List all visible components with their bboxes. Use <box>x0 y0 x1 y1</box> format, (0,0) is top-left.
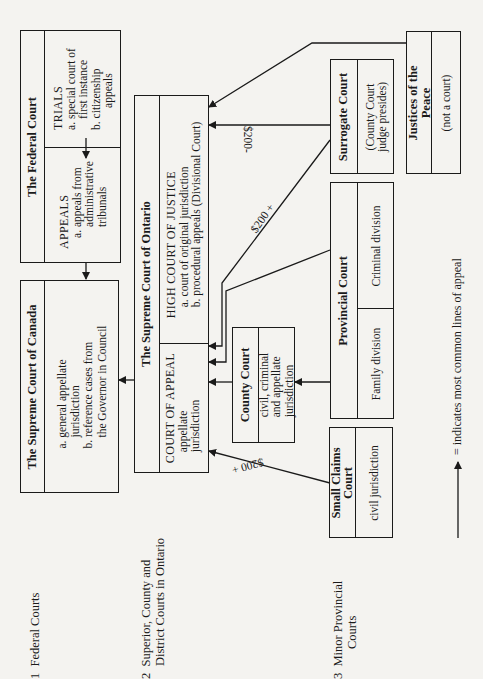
high-court-heading: HIGH COURT OF JUSTICE <box>165 121 178 318</box>
county-court-item: and appellate <box>270 353 282 418</box>
section-title-line2: District Courts in Ontario <box>154 538 168 679</box>
section-number: 1 <box>28 673 42 679</box>
section-title: Federal Courts <box>28 593 42 667</box>
supreme-court-ontario-header: The Supreme Court of Ontario <box>135 96 160 472</box>
county-court-item: jurisdiction <box>283 353 295 418</box>
provincial-court-header: Provincial Court <box>331 183 358 418</box>
justices-body: (not a court) <box>432 32 460 173</box>
county-court-box: County Court civil, criminal and appella… <box>232 327 295 443</box>
jurisdiction-item: jurisdiction <box>68 325 81 448</box>
supreme-court-canada-box: The Supreme Court of Canada a. general a… <box>20 280 119 493</box>
justices-note: (not a court) <box>440 74 452 131</box>
supreme-court-canada-header: The Supreme Court of Canada <box>21 281 45 492</box>
legend: = indicates most common lines of appeal <box>451 258 464 455</box>
trials-item: first instance <box>77 48 89 130</box>
court-of-appeal-item: appellate <box>177 353 189 463</box>
section-title-line1: Minor Provincial <box>331 581 345 667</box>
small-claims-note: civil jurisdiction <box>368 445 380 521</box>
legend-arrow-icon <box>452 460 464 540</box>
high-court-item: b. procedural appeals (Divisional Court) <box>190 121 202 318</box>
small-claims-body: civil jurisdiction <box>356 428 392 537</box>
appeals-item: administrative <box>83 161 95 249</box>
family-division-label: Family division <box>369 327 381 400</box>
justices-title-line2: Peace <box>419 65 432 140</box>
county-court-title: County Court <box>239 348 253 423</box>
federal-court-box: The Federal Court TRIALS a. special cour… <box>20 30 121 263</box>
surrogate-court-header: Surrogate Court <box>331 60 358 173</box>
section-number: 2 <box>139 673 153 679</box>
surrogate-court-body: (County Court judge presides) <box>358 60 393 173</box>
appeals-heading: APPEALS <box>57 161 70 249</box>
federal-court-header: The Federal Court <box>21 31 45 262</box>
surrogate-court-note: judge presides) <box>376 82 388 152</box>
justices-header: Justices of the Peace <box>407 32 432 173</box>
surrogate-court-box: Surrogate Court (County Court judge pres… <box>330 59 394 174</box>
small-claims-court-box: Small Claims Court civil jurisdiction <box>329 427 393 538</box>
surrogate-court-note: (County Court <box>363 82 375 152</box>
supreme-court-canada-title: The Supreme Court of Canada <box>26 304 40 469</box>
small-claims-header: Small Claims Court <box>330 428 356 537</box>
section-label-superior: 2 Superior, County and District Courts i… <box>140 538 168 679</box>
section-number: 3 <box>331 673 345 679</box>
trials-heading: TRIALS <box>51 48 64 130</box>
trials-item: a. special court of <box>64 48 76 130</box>
federal-court-title: The Federal Court <box>26 97 40 197</box>
court-of-appeal-item: jurisdiction <box>190 353 202 463</box>
threshold-surrogate-high-court: $200- <box>242 126 254 153</box>
county-court-body: civil, criminal and appellate jurisdicti… <box>259 328 294 442</box>
jurisdiction-item: a. general appellate <box>55 325 68 448</box>
jurisdiction-item: the Governor in Council <box>95 325 108 448</box>
supreme-court-ontario-title: The Supreme Court of Ontario <box>140 201 154 367</box>
small-claims-title-line2: Court <box>343 447 355 518</box>
justices-title-line1: Justices of the <box>407 65 420 140</box>
legend-text: = indicates most common lines of appeal <box>450 258 464 455</box>
criminal-division: Criminal division <box>358 183 393 309</box>
section-label-federal: 1 Federal Courts <box>29 593 43 679</box>
supreme-court-ontario-box: The Supreme Court of Ontario HIGH COURT … <box>134 95 209 473</box>
appeals-item: a. appeals from <box>70 161 82 249</box>
high-court-section: HIGH COURT OF JUSTICE a. court of origin… <box>160 96 208 344</box>
county-court-header: County Court <box>233 328 259 442</box>
federal-trials-section: TRIALS a. special court of first instanc… <box>45 31 120 148</box>
surrogate-court-title: Surrogate Court <box>337 72 351 160</box>
section-label-minor: 3 Minor Provincial Courts <box>332 581 360 679</box>
family-division: Family division <box>358 309 393 418</box>
jurisdiction-item: b. reference cases from <box>82 325 95 448</box>
section-title-line2: Courts <box>346 581 360 679</box>
high-court-item: a. court of original jurisdiction <box>178 121 190 318</box>
trials-item: appeals <box>101 48 113 130</box>
provincial-court-title: Provincial Court <box>337 256 351 346</box>
section-title-line1: Superior, County and <box>139 560 153 667</box>
court-of-appeal-section: COURT OF APPEAL appellate jurisdiction <box>160 344 208 472</box>
federal-appeals-section: APPEALS a. appeals from administrative t… <box>45 148 120 262</box>
provincial-court-box: Provincial Court Criminal division Famil… <box>330 182 394 419</box>
supreme-court-canada-body: a. general appellate jurisdiction b. ref… <box>45 281 118 492</box>
criminal-division-label: Criminal division <box>369 205 381 286</box>
court-of-appeal-heading: COURT OF APPEAL <box>164 353 177 463</box>
county-court-item: civil, criminal <box>258 353 270 418</box>
justices-of-the-peace-box: Justices of the Peace (not a court) <box>406 31 461 174</box>
trials-item: b. citizenship <box>89 48 101 130</box>
appeals-item: tribunals <box>95 161 107 249</box>
